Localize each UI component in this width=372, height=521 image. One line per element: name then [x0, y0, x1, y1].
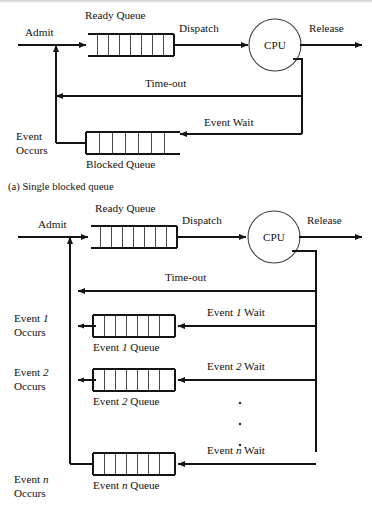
process-state-queue-diagram: Admit Ready Queue Dispatch [0, 0, 372, 521]
event-row-n: Event n Occurs Event n Queue Event n [14, 444, 316, 499]
cpu-label-b: CPU [263, 231, 285, 243]
event-1-queue-box [93, 315, 175, 337]
cpu-label-a: CPU [264, 39, 286, 51]
event-n-occurs-line2: Occurs [14, 487, 46, 499]
ready-queue-label-a: Ready Queue [85, 9, 146, 21]
caption-a: (a) Single blocked queue [8, 181, 114, 193]
ellipsis-dot-2 [239, 423, 242, 426]
vertical-ellipsis [239, 402, 242, 447]
event-2-wait-label: Event 2 Wait [207, 360, 266, 372]
event-1-queue-label: Event 1 Queue [93, 341, 160, 353]
ready-queue-box-b [91, 226, 177, 248]
event-occurs-label-a-line2: Occurs [16, 144, 48, 156]
event-n-wait-label: Event n Wait [207, 444, 266, 456]
timeout-label-a: Time-out [145, 77, 187, 89]
event-2-occurs-line2: Occurs [14, 380, 46, 392]
release-label-b: Release [307, 214, 342, 226]
event-2-queue-box [93, 369, 175, 391]
event-n-queue-box [93, 453, 175, 475]
ready-queue-box-a [88, 34, 174, 56]
event-n-queue-label: Event n Queue [93, 479, 160, 491]
event-wait-label-a: Event Wait [204, 116, 254, 128]
event-row-1: Event 1 Occurs Event 1 Queue Event 1 [14, 306, 316, 353]
event-1-occurs-line1: Event 1 [14, 312, 49, 324]
diagram-a: Admit Ready Queue Dispatch [8, 9, 362, 193]
blocked-queue-label-a: Blocked Queue [86, 158, 155, 170]
ellipsis-dot-1 [239, 402, 242, 405]
event-row-2: Event 2 Occurs Event 2 Queue Event 2 [14, 360, 316, 407]
admit-label-b: Admit [38, 218, 67, 230]
event-1-occurs-line2: Occurs [14, 326, 46, 338]
event-n-occurs-line1: Event n [14, 473, 49, 485]
blocked-queue-box-a [86, 132, 180, 154]
ready-queue-label-b: Ready Queue [95, 202, 156, 214]
figure-page: Admit Ready Queue Dispatch [0, 0, 372, 521]
release-label-a: Release [309, 22, 344, 34]
cpu-feedback-trunk-b [292, 251, 316, 452]
event-2-occurs-line1: Event 2 [14, 366, 49, 378]
dispatch-label-a: Dispatch [179, 22, 219, 34]
event-2-queue-label: Event 2 Queue [93, 395, 160, 407]
admit-label-a: Admit [25, 26, 54, 38]
dispatch-label-b: Dispatch [182, 214, 222, 226]
event-1-wait-label: Event 1 Wait [207, 306, 266, 318]
timeout-label-b: Time-out [165, 271, 207, 283]
event-occurs-label-a-line1: Event [16, 130, 43, 142]
diagram-b: Admit Ready Queue Dispatch [14, 202, 362, 499]
